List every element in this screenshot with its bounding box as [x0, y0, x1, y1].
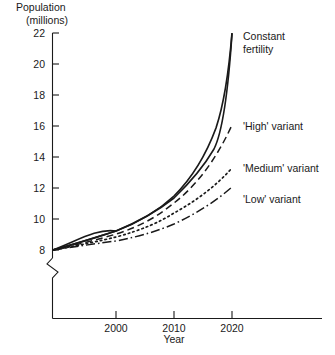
series-label-medium-variant: 'Medium' variant — [243, 162, 319, 175]
x-tick-label-2020: 2020 — [210, 322, 254, 334]
y-tick-label-18: 18 — [19, 89, 45, 101]
y-axis-break-zigzag — [47, 258, 58, 319]
y-tick-label-20: 20 — [19, 58, 45, 70]
y-axis-title-line1: Population — [16, 1, 66, 13]
series-curve-constant-fertility — [53, 34, 232, 251]
y-axis-title: Population (millions) — [16, 1, 68, 26]
x-tick-label-2000: 2000 — [94, 322, 138, 334]
y-tick-label-12: 12 — [19, 182, 45, 194]
caption-strip — [0, 350, 335, 355]
population-projection-chart: Population (millions) — [0, 0, 335, 355]
y-tick-label-8: 8 — [19, 244, 45, 256]
y-tick-label-22: 22 — [19, 27, 45, 39]
series-high-variant — [53, 125, 232, 250]
series-constant-fertility — [53, 33, 232, 250]
series-label-constant-line1: Constant — [243, 30, 285, 42]
x-axis-title: Year — [144, 333, 204, 345]
series-medium-variant — [53, 168, 232, 250]
series-label-constant-fertility: Constant fertility — [243, 30, 285, 55]
y-tick-label-16: 16 — [19, 120, 45, 132]
y-axis-title-line2: (millions) — [16, 14, 68, 27]
y-tick-label-10: 10 — [19, 213, 45, 225]
axes — [47, 33, 322, 319]
y-tick-label-14: 14 — [19, 151, 45, 163]
series-label-high-variant: 'High' variant — [243, 120, 303, 133]
series-label-low-variant: 'Low' variant — [243, 193, 301, 206]
series-label-constant-line2: fertility — [243, 43, 273, 55]
